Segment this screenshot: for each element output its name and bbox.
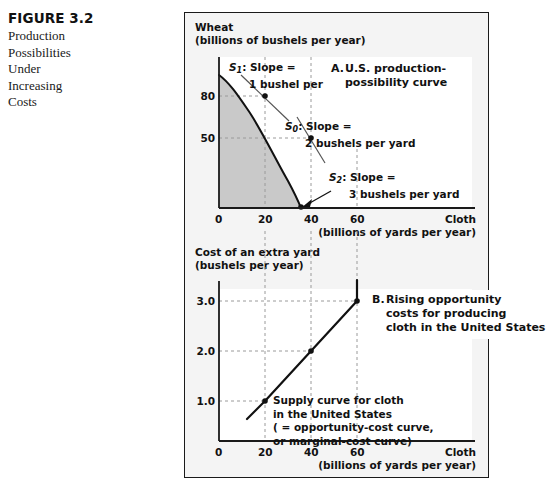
s2-symbol: S	[329, 171, 337, 183]
panel-b-x-axis-units: (billions of yards per year)	[318, 459, 476, 471]
supply-curve-label-line1: Supply curve for cloth	[273, 394, 434, 408]
panel-a-x-axis-units: (billions of yards per year)	[318, 226, 476, 238]
panel-b-title-line1: Rising opportunity	[386, 293, 502, 306]
panel-a-title: A.U.S. production-possibility curve	[326, 59, 455, 94]
supply-curve-label-line3: ( = opportunity-cost curve,	[273, 421, 434, 435]
panel-b-title-line2: costs for producing	[386, 307, 506, 320]
panel-a-ytick-80: 80	[191, 90, 215, 102]
annotation-s2: S2: Slope = 3 bushels per yard	[329, 171, 459, 201]
panel-a-production-possibility: Wheat (billions of bushels per year)	[185, 13, 488, 241]
caption-line: Increasing	[8, 78, 168, 95]
panel-b-title: B.Rising opportunitycosts for producingc…	[367, 290, 550, 339]
panel-a-title-line1: U.S. production-	[345, 62, 446, 75]
figure-number: FIGURE 3.2	[8, 10, 168, 26]
panel-a-xtick-40: 40	[304, 213, 319, 225]
panel-b-letter: B.	[372, 293, 386, 307]
panel-b-x-axis-title: Cloth	[445, 446, 476, 458]
panel-a-ytick-50: 50	[191, 132, 215, 144]
supply-point-60	[354, 298, 360, 304]
panel-a-title-line2: possibility curve	[345, 76, 447, 89]
annotation-s0-line1: S0: Slope =	[285, 120, 415, 137]
supply-point-40	[308, 348, 314, 354]
annotation-s0-line2: 2 bushels per yard	[285, 137, 415, 151]
panel-b-xtick-20: 20	[258, 446, 273, 458]
annotation-s2-line2: 3 bushels per yard	[329, 188, 459, 202]
panel-a-xtick-0: 0	[215, 213, 222, 225]
panel-a-xtick-20: 20	[258, 213, 273, 225]
annotation-s0: S0: Slope = 2 bushels per yard	[285, 120, 415, 150]
panel-a-x-axis-title: Cloth	[445, 213, 476, 225]
annotation-s2-line1: S2: Slope =	[329, 171, 459, 188]
s0-slope-text: : Slope =	[298, 120, 351, 132]
s2-slope-text: : Slope =	[342, 171, 395, 183]
panel-b-title-line3: cloth in the United States	[386, 321, 545, 334]
panel-a-letter: A.	[331, 62, 345, 76]
panel-b-ytick-1: 1.0	[185, 395, 215, 407]
figure-box: Wheat (billions of bushels per year)	[184, 12, 489, 478]
supply-curve-label-line4: or marginal-cost curve)	[273, 435, 434, 449]
panel-b-xtick-0: 0	[215, 446, 222, 458]
caption-line: Costs	[8, 94, 168, 111]
point-s1	[262, 93, 268, 99]
figure-caption-text: Production Possibilities Under Increasin…	[8, 28, 168, 111]
panel-b-ytick-2: 2.0	[185, 345, 215, 357]
caption-line: Possibilities	[8, 45, 168, 62]
panel-a-xtick-60: 60	[350, 213, 365, 225]
s0-symbol: S	[285, 120, 293, 132]
figure-caption-block: FIGURE 3.2 Production Possibilities Unde…	[8, 10, 168, 111]
panel-b-opportunity-cost: Cost of an extra yard (bushels per year)	[185, 241, 488, 477]
s1-symbol: S	[229, 61, 237, 73]
caption-line: Under	[8, 61, 168, 78]
supply-curve-label-line2: in the United States	[273, 408, 434, 422]
panel-b-ytick-3: 3.0	[185, 295, 215, 307]
supply-point-20	[262, 398, 268, 404]
supply-curve-label: Supply curve for cloth in the United Sta…	[273, 394, 434, 448]
caption-line: Production	[8, 28, 168, 45]
s1-slope-text: : Slope =	[242, 61, 295, 73]
